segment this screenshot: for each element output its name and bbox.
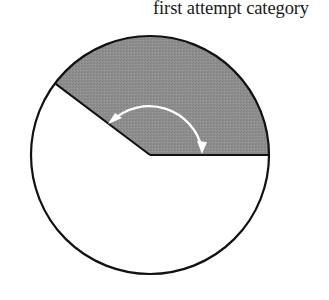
pie-diagram	[0, 0, 329, 300]
